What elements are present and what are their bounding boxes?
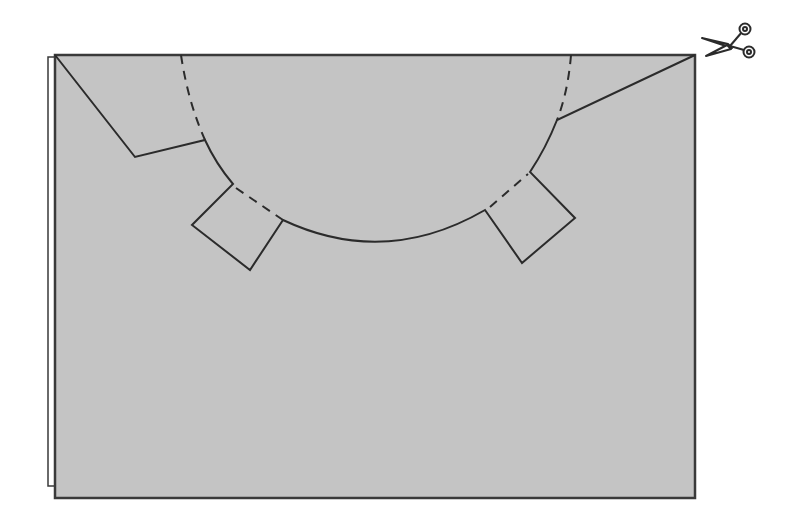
scissors-icon bbox=[702, 24, 755, 58]
diagram-canvas: Folded paper cutting template with a sem… bbox=[0, 0, 787, 520]
paper-sheet bbox=[55, 55, 695, 498]
